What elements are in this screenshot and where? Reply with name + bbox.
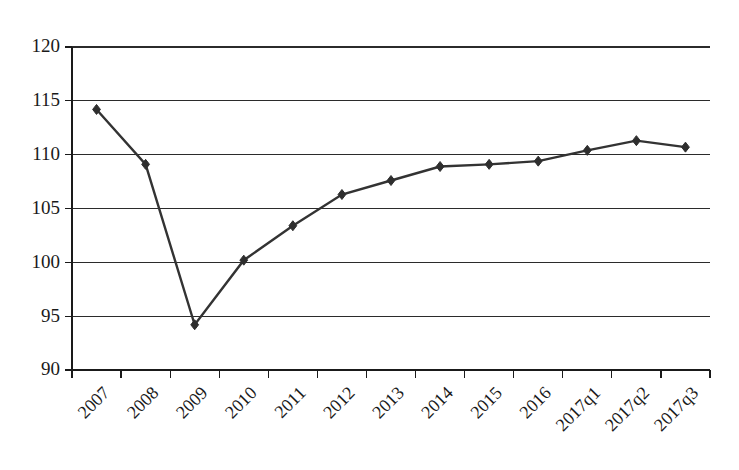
x-tick-label: 2012 [319, 383, 359, 423]
x-tick-label: 2010 [221, 383, 261, 423]
x-tick-label: 2013 [368, 383, 408, 423]
x-tick-label: 2015 [466, 383, 506, 423]
data-point-marker [436, 162, 444, 172]
data-point-marker [632, 136, 640, 146]
y-tick-label: 100 [32, 251, 61, 272]
data-point-marker [338, 190, 346, 200]
x-axis-tick-labels: 2007200820092010201120122013201420152016… [74, 383, 703, 435]
x-tick-label: 2008 [123, 383, 163, 423]
x-tick-label: 2014 [417, 383, 457, 423]
y-tick-label: 90 [41, 358, 60, 379]
x-tick-label: 2017q3 [650, 383, 702, 435]
y-axis-tick-labels: 9095100105110115120 [32, 35, 61, 379]
x-tick-label: 2016 [515, 383, 555, 423]
y-tick-label: 105 [32, 197, 61, 218]
line-chart: 9095100105110115120 20072008200920102011… [0, 0, 739, 470]
data-point-marker [682, 142, 690, 152]
chart-container: 9095100105110115120 20072008200920102011… [0, 0, 739, 470]
y-tick-label: 120 [32, 35, 61, 56]
y-tick-label: 110 [32, 143, 60, 164]
gridlines [72, 47, 710, 370]
y-axis-tick-marks [65, 47, 72, 370]
y-tick-label: 95 [41, 305, 60, 326]
data-series [97, 109, 686, 324]
data-point-marker [289, 221, 297, 231]
data-point-marker [583, 145, 591, 155]
x-tick-label: 2011 [271, 383, 310, 422]
y-tick-label: 115 [32, 89, 60, 110]
x-tick-label: 2007 [74, 383, 114, 423]
data-point-marker [387, 176, 395, 186]
data-point-marker [485, 159, 493, 169]
x-tick-label: 2017q2 [601, 383, 653, 435]
series-line [97, 109, 686, 324]
data-point-markers [93, 104, 690, 329]
x-tick-label: 2009 [172, 383, 212, 423]
x-axis-tick-marks [72, 370, 710, 378]
x-tick-label: 2017q1 [552, 383, 604, 435]
data-point-marker [534, 156, 542, 166]
